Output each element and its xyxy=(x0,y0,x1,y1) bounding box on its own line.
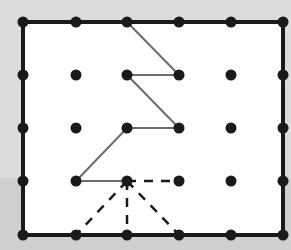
grid-dot xyxy=(226,123,237,134)
grid-dot xyxy=(122,70,133,81)
grid-dot xyxy=(226,17,237,28)
grid-dot xyxy=(18,17,29,28)
grid-dot xyxy=(278,70,289,81)
grid-dot xyxy=(18,176,29,187)
grid-dot xyxy=(71,17,82,28)
grid-dot xyxy=(18,230,29,241)
grid-dot xyxy=(174,17,185,28)
grid-dot xyxy=(226,70,237,81)
grid-dot xyxy=(226,176,237,187)
grid-dot xyxy=(278,230,289,241)
grid-dot xyxy=(174,70,185,81)
grid-dot xyxy=(278,123,289,134)
diagram-stage xyxy=(0,0,291,250)
grid-dot xyxy=(174,176,185,187)
grid-dot xyxy=(122,123,133,134)
grid-dot xyxy=(174,123,185,134)
grid-dot xyxy=(122,176,133,187)
grid-dot xyxy=(122,17,133,28)
grid-dot xyxy=(71,230,82,241)
grid-dot xyxy=(278,17,289,28)
grid-dot xyxy=(278,176,289,187)
grid-dot xyxy=(174,230,185,241)
grid-dot xyxy=(71,123,82,134)
grid-dot xyxy=(18,70,29,81)
grid-dot xyxy=(226,230,237,241)
dot-grid-diagram xyxy=(0,0,291,250)
grid-dot xyxy=(122,230,133,241)
grid-dot xyxy=(18,123,29,134)
grid-dot xyxy=(71,176,82,187)
grid-dot xyxy=(71,70,82,81)
